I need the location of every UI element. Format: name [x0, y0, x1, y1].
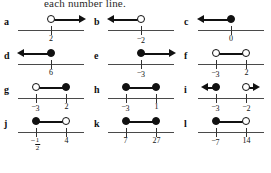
tick-label: 7 [124, 136, 128, 145]
arrow-left-icon [107, 15, 114, 23]
tick-label: −7 [212, 136, 220, 147]
item-letter: h [94, 84, 100, 95]
arrow-right-icon [79, 15, 86, 23]
tick-label: 4 [64, 136, 68, 145]
number-line-item: f−32 [180, 45, 271, 79]
number-line: −31 [106, 79, 176, 113]
tick-value: 2 [49, 34, 53, 43]
tick-value: 3 [216, 104, 220, 113]
item-letter: i [184, 84, 187, 95]
tick-value: 2 [246, 104, 250, 113]
number-line-axis [18, 132, 84, 133]
item-letter: b [94, 16, 100, 27]
number-line-item: a2 [0, 11, 90, 45]
item-letter: c [184, 16, 188, 27]
item-letter: j [4, 118, 7, 129]
tick-label: 6 [49, 68, 53, 77]
tick-label: 2 [244, 68, 248, 77]
number-line-item: l−714 [180, 113, 271, 157]
tick-label: −2 [242, 102, 250, 113]
item-letter: g [4, 84, 9, 95]
tick-value: 3 [126, 104, 130, 113]
instruction-text: each number line. [44, 0, 126, 8]
number-line-item: i−3−2 [180, 79, 271, 113]
closed-circle [227, 15, 235, 23]
item-letter: f [184, 50, 187, 61]
number-line-item: h−31 [90, 79, 180, 113]
item-letter: e [94, 50, 98, 61]
number-line: −124 [16, 113, 86, 157]
number-line: −32 [196, 45, 266, 79]
number-line-axis [198, 64, 264, 65]
item-letter: l [184, 118, 187, 129]
open-circle [242, 49, 250, 57]
number-line-axis [108, 132, 174, 133]
open-circle [242, 83, 250, 91]
tick-value: 2 [64, 102, 68, 111]
item-letter: k [94, 118, 100, 129]
number-line: −2 [106, 11, 176, 45]
closed-circle [62, 83, 70, 91]
tick-label: 14 [242, 136, 250, 145]
tick-value: 14 [242, 136, 250, 145]
tick-label: −3 [122, 102, 130, 113]
tick-label: 1 [154, 102, 158, 111]
number-line-axis [18, 98, 84, 99]
open-circle [47, 15, 55, 23]
number-line-item: e−3 [90, 45, 180, 79]
item-letter: d [4, 50, 10, 61]
ray-bar [141, 53, 170, 55]
tick-label: −3 [32, 102, 40, 113]
tick-label: 0 [229, 34, 233, 43]
number-line: −714 [196, 113, 266, 157]
open-circle [32, 83, 40, 91]
arrow-right-icon [169, 49, 176, 57]
number-line: −3 [106, 45, 176, 79]
number-line-item: k727 [90, 113, 180, 157]
arrow-right-icon [253, 83, 260, 91]
tick-label: −3 [212, 68, 220, 79]
open-circle [242, 117, 250, 125]
tick-label: −3 [137, 68, 145, 79]
number-line-item: g−32 [0, 79, 90, 113]
item-letter: a [4, 16, 9, 27]
closed-circle [47, 49, 55, 57]
tick-value: 7 [124, 136, 128, 145]
number-line: 2 [16, 11, 86, 45]
worksheet-page: each number line. a2b−2c0d6e−3f−32g−32h−… [0, 0, 271, 173]
number-line-item: d6 [0, 45, 90, 79]
tick-value: 3 [216, 70, 220, 79]
number-line: −32 [16, 79, 86, 113]
closed-circle [122, 117, 130, 125]
tick-label: 2 [64, 102, 68, 111]
fraction: 12 [35, 137, 41, 152]
closed-circle [122, 83, 130, 91]
number-line: 6 [16, 45, 86, 79]
arrow-left-icon [197, 15, 204, 23]
tick-value: 1 [154, 102, 158, 111]
tick-value: 3 [141, 70, 145, 79]
closed-circle [32, 117, 40, 125]
tick-value: 6 [49, 68, 53, 77]
number-line: −3−2 [196, 79, 266, 113]
closed-circle [152, 83, 160, 91]
closed-circle [137, 49, 145, 57]
closed-circle [212, 117, 220, 125]
number-line-item: c0 [180, 11, 271, 45]
arrow-left-icon [17, 49, 24, 57]
tick-value: 0 [229, 34, 233, 43]
tick-label: −2 [137, 34, 145, 45]
number-line: 0 [196, 11, 266, 45]
tick-value: 27 [152, 136, 160, 145]
tick-label: −12 [31, 136, 41, 151]
closed-circle [212, 83, 220, 91]
number-line-axis [198, 98, 264, 99]
number-line: 727 [106, 113, 176, 157]
number-line-axis [108, 98, 174, 99]
open-circle [212, 49, 220, 57]
tick-label: 27 [152, 136, 160, 145]
number-line-item: b−2 [90, 11, 180, 45]
fraction-denominator: 2 [35, 145, 41, 152]
tick-value: 2 [141, 36, 145, 45]
open-circle [137, 15, 145, 23]
